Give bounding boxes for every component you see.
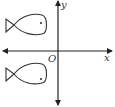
fish-upper-eye-icon — [40, 22, 42, 24]
fish-lower-eye-icon — [40, 78, 42, 80]
origin-label: O — [48, 53, 56, 64]
fish-upper — [6, 14, 47, 34]
x-axis-label: x — [104, 52, 110, 63]
fish-lower — [6, 63, 47, 84]
coordinate-diagram: y x O — [0, 0, 115, 107]
y-axis-label: y — [60, 0, 67, 10]
